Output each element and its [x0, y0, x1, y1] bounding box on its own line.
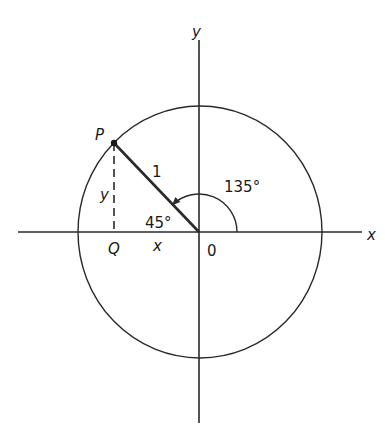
leg-y-label: y [99, 186, 110, 204]
reference-angle-label: 45° [145, 214, 172, 232]
angle-label: 135° [224, 178, 260, 196]
x-axis-label: x [366, 226, 376, 244]
y-axis-label: y [191, 23, 202, 41]
point-p-dot [111, 140, 117, 146]
point-p-label: P [95, 126, 105, 144]
radius-label: 1 [152, 163, 162, 181]
unit-circle-diagram: y x P Q 0 1 y x 45° 135° [0, 0, 385, 440]
arc-arrowhead-icon [172, 197, 180, 205]
point-q-label: Q [108, 240, 120, 258]
origin-label: 0 [207, 242, 217, 260]
leg-x-label: x [152, 237, 162, 255]
